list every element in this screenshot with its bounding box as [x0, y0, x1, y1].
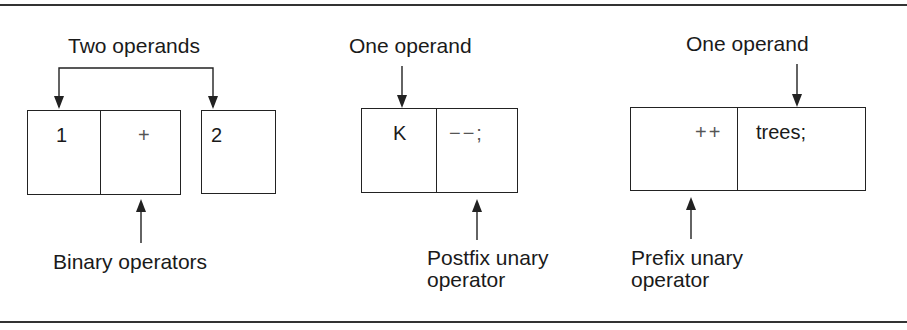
postfix-unary-operator-label-line2: operator — [427, 268, 505, 292]
binary-operator-up-arrow — [136, 199, 146, 243]
operand-2-cell: 2 — [201, 110, 276, 194]
operand-1-text: 1 — [56, 125, 67, 145]
top-border-rule — [0, 4, 907, 6]
two-operands-bracket-arrow — [54, 68, 218, 109]
operand-trees-cell: trees; — [737, 107, 866, 191]
two-operands-label: Two operands — [68, 34, 200, 58]
operand-k-cell: K — [361, 108, 438, 193]
prefix-unary-operator-label-line2: operator — [631, 268, 709, 292]
postfix-unary-operator-label-line1: Postfix unary — [427, 246, 548, 270]
postfix-operator-up-arrow — [472, 199, 482, 240]
operand-2-text: 2 — [211, 125, 222, 145]
prefix-one-operand-down-arrow — [792, 64, 802, 107]
increment-operator-text: ++ — [695, 122, 722, 142]
prefix-unary-operator-label-line1: Prefix unary — [631, 246, 743, 270]
decrement-operator-text: −−; — [449, 123, 484, 143]
binary-operators-label: Binary operators — [53, 250, 207, 274]
postfix-one-operand-down-arrow — [397, 66, 407, 108]
one-operand-label-postfix: One operand — [349, 34, 472, 58]
prefix-operator-up-arrow — [686, 197, 696, 239]
bottom-border-rule — [0, 321, 907, 323]
prefix-operator-cell: ++ — [630, 107, 739, 191]
plus-operator-text: + — [138, 125, 152, 145]
operand-1-cell: 1 — [27, 110, 102, 195]
operand-k-text: K — [393, 123, 406, 143]
postfix-operator-cell: −−; — [436, 108, 518, 193]
binary-operator-cell: + — [100, 110, 181, 195]
operand-trees-text: trees; — [756, 122, 806, 142]
one-operand-label-prefix: One operand — [686, 32, 809, 56]
